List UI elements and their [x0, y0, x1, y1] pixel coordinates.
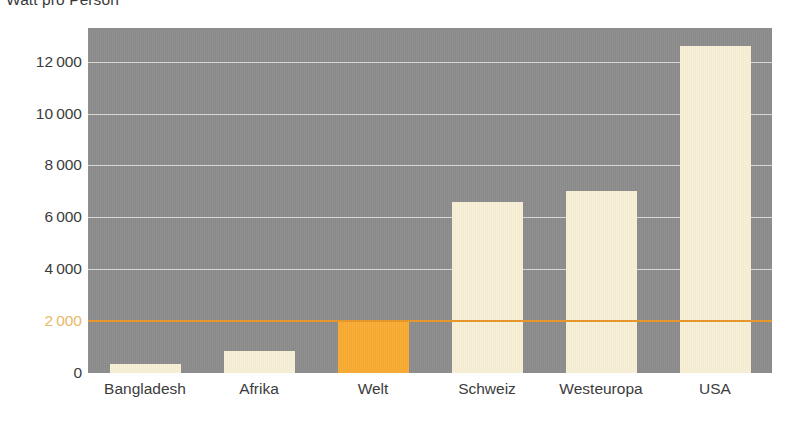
x-axis: BangladeshAfrikaWeltSchweizWesteuropaUSA	[88, 380, 772, 410]
x-tick-label-usa: USA	[699, 380, 731, 398]
y-tick-label-8000: 8 000	[6, 156, 82, 174]
bar-bangladesh	[110, 364, 181, 373]
bar-afrika	[224, 351, 295, 373]
gridline-12000	[88, 62, 772, 63]
y-tick-label-0: 0	[6, 364, 82, 382]
bar-westeuropa	[566, 191, 637, 373]
x-tick-label-welt: Welt	[358, 380, 389, 398]
bar-usa	[680, 46, 751, 373]
gridline-6000	[88, 217, 772, 218]
plot-area	[88, 28, 772, 373]
gridline-highlight-2000	[88, 320, 772, 322]
y-axis: 02 0004 0006 0008 00010 00012 000	[0, 28, 82, 373]
bar-welt	[338, 321, 409, 373]
gridline-4000	[88, 269, 772, 270]
x-tick-label-bangladesh: Bangladesh	[104, 380, 186, 398]
y-tick-label-10000: 10 000	[6, 105, 82, 123]
x-tick-label-westeuropa: Westeuropa	[559, 380, 642, 398]
gridline-10000	[88, 114, 772, 115]
chart-title: Watt pro Person	[6, 0, 119, 9]
chart-root: Watt pro Person 02 0004 0006 0008 00010 …	[0, 0, 785, 421]
y-tick-label-2000: 2 000	[6, 312, 82, 330]
y-tick-label-6000: 6 000	[6, 208, 82, 226]
gridline-8000	[88, 165, 772, 166]
x-tick-label-schweiz: Schweiz	[458, 380, 516, 398]
y-tick-label-4000: 4 000	[6, 260, 82, 278]
x-tick-label-afrika: Afrika	[239, 380, 279, 398]
bar-schweiz	[452, 202, 523, 373]
y-tick-label-12000: 12 000	[6, 53, 82, 71]
